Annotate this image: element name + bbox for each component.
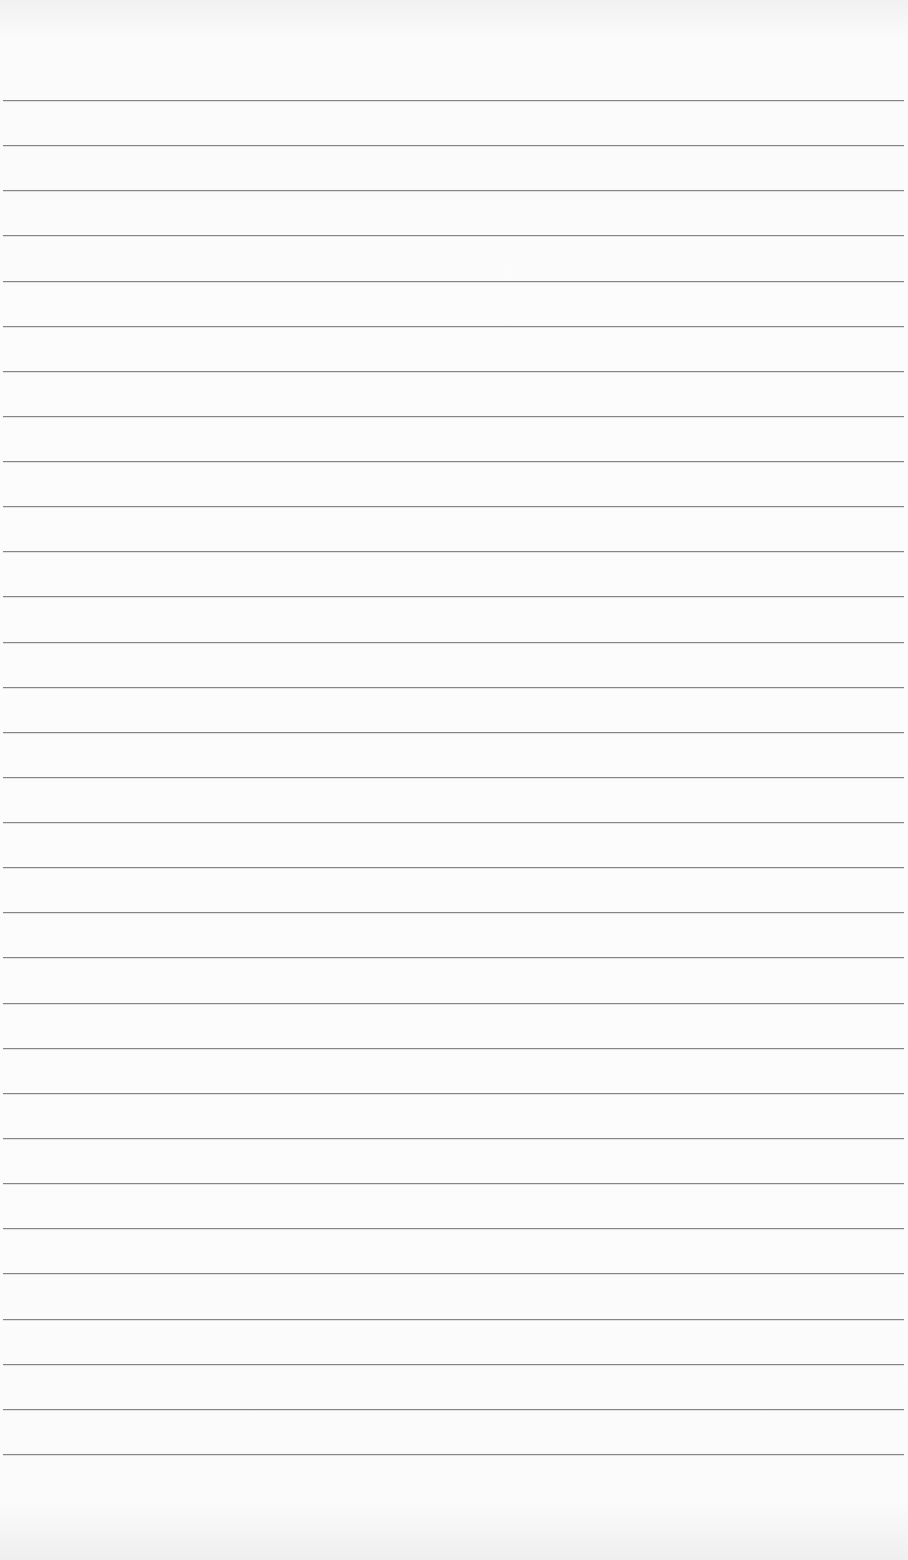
ruled-line	[3, 1048, 904, 1049]
ruled-line	[3, 1093, 904, 1094]
ruled-paper-sheet	[0, 0, 908, 1560]
ruled-line	[3, 461, 904, 462]
ruled-line	[3, 1319, 904, 1320]
ruled-line	[3, 642, 904, 643]
ruled-line	[3, 957, 904, 958]
ruled-line	[3, 235, 904, 236]
ruled-line	[3, 596, 904, 597]
ruled-line	[3, 190, 904, 191]
ruled-line	[3, 100, 904, 101]
ruled-line	[3, 1003, 904, 1004]
ruled-line	[3, 326, 904, 327]
ruled-line	[3, 822, 904, 823]
ruled-line	[3, 912, 904, 913]
ruled-line	[3, 1273, 904, 1274]
ruled-line	[3, 1228, 904, 1229]
ruled-line	[3, 506, 904, 507]
ruled-line	[3, 1409, 904, 1410]
ruled-line	[3, 777, 904, 778]
ruled-line	[3, 371, 904, 372]
ruled-line	[3, 551, 904, 552]
ruled-line	[3, 687, 904, 688]
ruled-line	[3, 145, 904, 146]
ruled-line	[3, 1454, 904, 1455]
ruled-line	[3, 867, 904, 868]
ruled-line	[3, 732, 904, 733]
ruled-line	[3, 1183, 904, 1184]
ruled-line	[3, 1138, 904, 1139]
ruled-line	[3, 416, 904, 417]
ruled-line	[3, 281, 904, 282]
ruled-line	[3, 1364, 904, 1365]
